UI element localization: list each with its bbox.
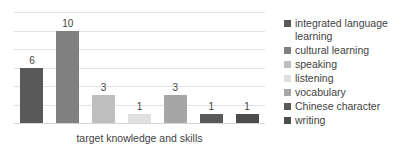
bar[interactable] bbox=[164, 95, 187, 123]
bar[interactable] bbox=[56, 31, 79, 124]
bar-value-label: 10 bbox=[62, 18, 73, 29]
legend-swatch-icon bbox=[284, 61, 291, 68]
bar-slot: 3 bbox=[164, 12, 187, 123]
legend-item[interactable]: writing bbox=[284, 114, 414, 127]
legend-item-label: integrated language learning bbox=[295, 17, 414, 43]
bar[interactable] bbox=[200, 114, 223, 123]
bar-slot: 1 bbox=[200, 12, 223, 123]
bar[interactable] bbox=[92, 95, 115, 123]
legend-swatch-icon bbox=[284, 89, 291, 96]
bar[interactable] bbox=[20, 68, 43, 124]
bar[interactable] bbox=[128, 114, 151, 123]
chart-legend: integrated language learningcultural lea… bbox=[284, 17, 414, 128]
bar[interactable] bbox=[236, 114, 259, 123]
legend-item[interactable]: cultural learning bbox=[284, 44, 414, 57]
bars-group: 61031311 bbox=[14, 12, 265, 123]
legend-item-label: writing bbox=[295, 114, 325, 127]
bar-value-label: 1 bbox=[137, 101, 143, 112]
axis-baseline bbox=[14, 123, 265, 124]
bar-slot: 3 bbox=[92, 12, 115, 123]
bar-value-label: 1 bbox=[208, 101, 214, 112]
plot-area: 61031311 bbox=[14, 12, 265, 123]
legend-item[interactable]: vocabulary bbox=[284, 86, 414, 99]
legend-swatch-icon bbox=[284, 47, 291, 54]
bar-slot: 1 bbox=[236, 12, 259, 123]
legend-swatch-icon bbox=[284, 75, 291, 82]
legend-item-label: speaking bbox=[295, 58, 337, 71]
x-axis-title: target knowledge and skills bbox=[14, 132, 265, 145]
legend-item[interactable]: Chinese character bbox=[284, 100, 414, 113]
legend-swatch-icon bbox=[284, 117, 291, 124]
legend-item-label: listening bbox=[295, 72, 334, 85]
bar-slot: 6 bbox=[20, 12, 43, 123]
legend-item[interactable]: integrated language learning bbox=[284, 17, 414, 43]
legend-item-label: Chinese character bbox=[295, 100, 380, 113]
legend-item[interactable]: listening bbox=[284, 72, 414, 85]
legend-swatch-icon bbox=[284, 20, 291, 27]
bar-value-label: 6 bbox=[29, 55, 35, 66]
legend-item[interactable]: speaking bbox=[284, 58, 414, 71]
bar-chart: 61031311 target knowledge and skills int… bbox=[0, 0, 417, 157]
bar-value-label: 1 bbox=[244, 101, 250, 112]
bar-value-label: 3 bbox=[173, 82, 179, 93]
bar-slot: 1 bbox=[128, 12, 151, 123]
legend-item-label: cultural learning bbox=[295, 44, 369, 57]
legend-item-label: vocabulary bbox=[295, 86, 346, 99]
bar-slot: 10 bbox=[56, 12, 79, 123]
legend-swatch-icon bbox=[284, 103, 291, 110]
bar-value-label: 3 bbox=[101, 82, 107, 93]
